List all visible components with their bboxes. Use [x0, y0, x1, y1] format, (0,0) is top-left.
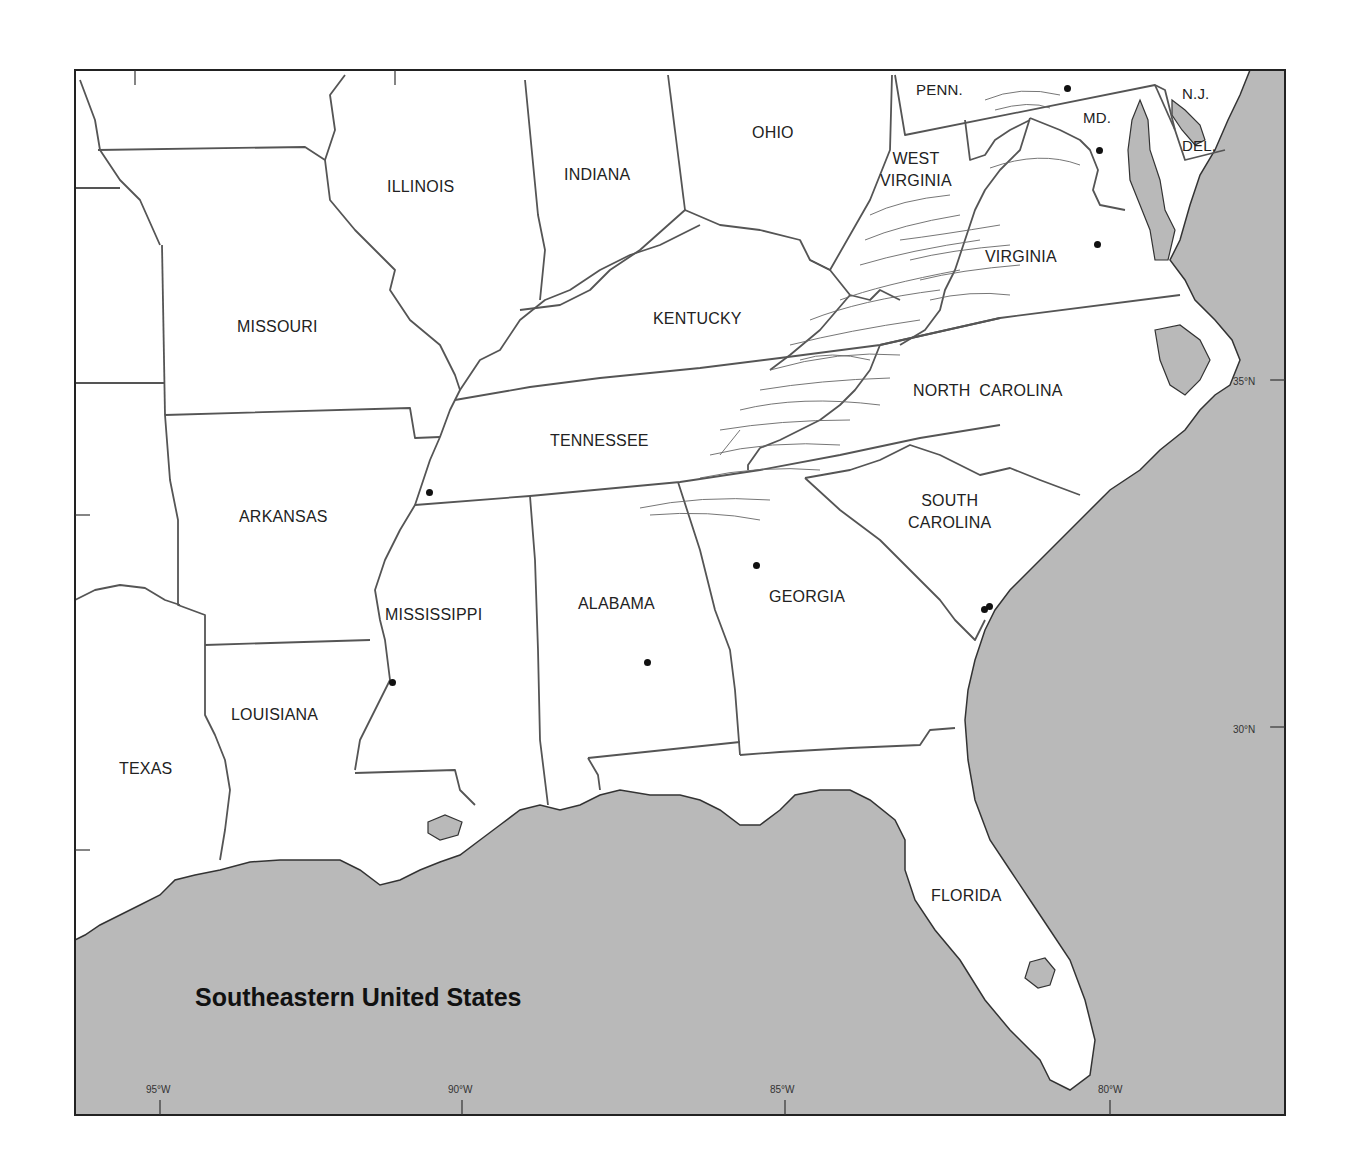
state-label-west-virginia: WEST VIRGINIA — [880, 148, 952, 192]
state-label-texas: TEXAS — [119, 758, 172, 780]
state-label-west-virginia-line1: WEST — [880, 148, 952, 170]
state-label-north-carolina: NORTH CAROLINA — [913, 380, 1063, 402]
longitude-label-85w: 85°W — [770, 1084, 795, 1095]
city-dot-georgia-north — [753, 562, 760, 569]
state-label-south-carolina: SOUTH CAROLINA — [908, 490, 991, 534]
state-label-illinois: ILLINOIS — [387, 176, 454, 198]
longitude-label-90w: 90°W — [448, 1084, 473, 1095]
state-label-delaware: DEL. — [1182, 135, 1216, 157]
city-dot-virginia — [1094, 241, 1101, 248]
state-label-louisiana: LOUISIANA — [231, 704, 318, 726]
longitude-label-80w: 80°W — [1098, 1084, 1123, 1095]
state-label-new-jersey: N.J. — [1182, 83, 1209, 105]
city-dot-mississippi — [389, 679, 396, 686]
state-label-ohio: OHIO — [752, 122, 794, 144]
state-label-pennsylvania: PENN. — [916, 79, 963, 101]
state-label-virginia: VIRGINIA — [985, 246, 1057, 268]
state-label-georgia: GEORGIA — [769, 586, 845, 608]
state-label-south-carolina-line2: CAROLINA — [908, 512, 991, 534]
state-label-arkansas: ARKANSAS — [239, 506, 328, 528]
latitude-label-35n: 35°N — [1233, 376, 1255, 387]
state-label-mississippi: MISSISSIPPI — [385, 604, 482, 626]
state-label-west-virginia-line2: VIRGINIA — [880, 170, 952, 192]
city-dot-maryland — [1096, 147, 1103, 154]
city-dot-alabama — [644, 659, 651, 666]
city-dot-south-carolina-2 — [986, 603, 993, 610]
latitude-label-30n: 30°N — [1233, 724, 1255, 735]
state-label-maryland: MD. — [1083, 107, 1111, 129]
longitude-label-95w: 95°W — [146, 1084, 171, 1095]
state-label-south-carolina-line1: SOUTH — [908, 490, 991, 512]
state-label-florida: FLORIDA — [931, 885, 1002, 907]
map-title: Southeastern United States — [195, 983, 521, 1012]
city-dot-pennsylvania — [1064, 85, 1071, 92]
state-label-kentucky: KENTUCKY — [653, 308, 742, 330]
city-dot-tennessee — [426, 489, 433, 496]
state-label-alabama: ALABAMA — [578, 593, 655, 615]
state-label-indiana: INDIANA — [564, 164, 630, 186]
state-label-tennessee: TENNESSEE — [550, 430, 649, 452]
state-label-missouri: MISSOURI — [237, 316, 318, 338]
